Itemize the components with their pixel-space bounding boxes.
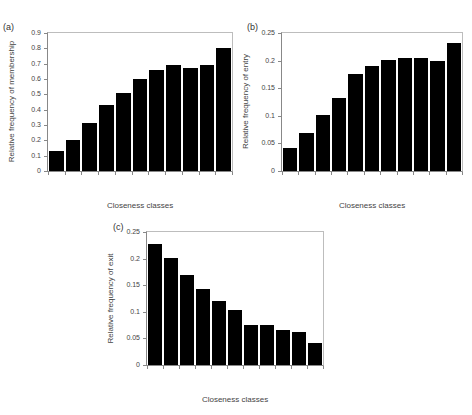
- y-tick-mark: [278, 88, 281, 89]
- x-tick-mark: [429, 172, 430, 175]
- plot-area: [281, 32, 463, 172]
- y-tick-mark: [44, 140, 47, 141]
- x-tick-mark: [227, 366, 228, 369]
- x-tick-mark: [215, 172, 216, 175]
- x-tick-mark: [259, 366, 260, 369]
- bar->=50: [447, 43, 461, 171]
- x-tick-mark: [195, 366, 196, 369]
- bar-15-19: [196, 289, 210, 365]
- y-tick-label: 0.8: [17, 44, 41, 51]
- x-tick-mark: [446, 172, 447, 175]
- y-tick-mark: [44, 156, 47, 157]
- y-axis-label: Relative frequency of membership: [7, 32, 16, 172]
- plot-area: [47, 32, 233, 172]
- bar-20-24: [348, 74, 362, 171]
- bar-30-34: [381, 60, 395, 172]
- y-axis-label: Relative frequency of exit: [106, 231, 115, 366]
- y-tick-label: 0.1: [116, 308, 140, 315]
- x-tick-mark: [243, 366, 244, 369]
- bar-35-39: [166, 65, 181, 171]
- bar-5-9: [66, 140, 81, 171]
- y-tick-label: 0: [251, 167, 275, 174]
- panel-label: (a): [3, 22, 14, 32]
- y-tick-label: 0.2: [17, 136, 41, 143]
- bar-5-9: [164, 258, 178, 365]
- x-tick-mark: [211, 366, 212, 369]
- bar-30-34: [149, 70, 164, 171]
- y-tick-mark: [278, 143, 281, 144]
- y-tick-label: 0.2: [251, 57, 275, 64]
- bar-25-29: [228, 310, 242, 365]
- x-tick-mark: [232, 172, 233, 175]
- bar-15-19: [99, 105, 114, 171]
- bar-5-9: [299, 133, 313, 171]
- y-tick-mark: [143, 312, 146, 313]
- y-tick-label: 0.25: [116, 228, 140, 235]
- x-tick-mark: [98, 172, 99, 175]
- y-tick-mark: [278, 116, 281, 117]
- y-tick-label: 0.05: [116, 334, 140, 341]
- y-tick-label: 0.25: [251, 29, 275, 36]
- x-tick-mark: [165, 172, 166, 175]
- bar-25-29: [365, 66, 379, 171]
- x-tick-mark: [163, 366, 164, 369]
- y-tick-label: 0.5: [17, 90, 41, 97]
- x-tick-mark: [291, 366, 292, 369]
- y-tick-mark: [278, 33, 281, 34]
- y-tick-mark: [44, 125, 47, 126]
- bar-20-24: [212, 301, 226, 365]
- y-tick-mark: [44, 171, 47, 172]
- y-tick-label: 0.1: [251, 112, 275, 119]
- x-axis-label: Closeness classes: [281, 201, 463, 210]
- y-tick-label: 0.9: [17, 29, 41, 36]
- x-tick-mark: [179, 366, 180, 369]
- x-tick-mark: [364, 172, 365, 175]
- bar-15-19: [332, 98, 346, 171]
- bar->=50: [308, 343, 322, 365]
- y-tick-label: 0.6: [17, 75, 41, 82]
- bar-35-39: [260, 325, 274, 365]
- bar-10-14: [316, 115, 330, 171]
- x-axis-label: Closeness classes: [146, 395, 324, 404]
- y-tick-mark: [143, 338, 146, 339]
- x-tick-mark: [397, 172, 398, 175]
- y-tick-mark: [143, 285, 146, 286]
- y-tick-label: 0.1: [17, 152, 41, 159]
- x-tick-mark: [199, 172, 200, 175]
- y-tick-mark: [44, 33, 47, 34]
- y-tick-mark: [143, 259, 146, 260]
- y-tick-mark: [44, 48, 47, 49]
- x-tick-mark: [148, 172, 149, 175]
- x-tick-mark: [323, 366, 324, 369]
- y-tick-mark: [44, 94, 47, 95]
- x-tick-mark: [282, 172, 283, 175]
- bar-45-49: [292, 332, 306, 365]
- bar->=50: [216, 48, 231, 171]
- bar-20-24: [116, 93, 131, 171]
- bar-35-39: [398, 58, 412, 171]
- bar-10-14: [180, 275, 194, 365]
- x-axis-label: Closeness classes: [47, 201, 233, 210]
- bar-10-14: [82, 123, 97, 171]
- y-tick-mark: [143, 365, 146, 366]
- y-tick-label: 0: [17, 167, 41, 174]
- y-tick-mark: [44, 79, 47, 80]
- x-tick-mark: [132, 172, 133, 175]
- y-tick-label: 0: [116, 361, 140, 368]
- y-tick-mark: [278, 61, 281, 62]
- bar-25-29: [133, 79, 148, 171]
- x-tick-mark: [307, 366, 308, 369]
- x-tick-mark: [462, 172, 463, 175]
- bar-0-4: [148, 244, 162, 365]
- bar-40-44: [276, 330, 290, 365]
- y-tick-label: 0.3: [17, 121, 41, 128]
- y-tick-mark: [44, 64, 47, 65]
- y-axis-label: Relative frequency of entry: [241, 32, 250, 172]
- bar-40-44: [414, 58, 428, 171]
- bar-45-49: [430, 61, 444, 171]
- y-tick-mark: [143, 232, 146, 233]
- y-tick-label: 0.15: [251, 84, 275, 91]
- x-tick-mark: [182, 172, 183, 175]
- y-tick-label: 0.7: [17, 60, 41, 67]
- x-tick-mark: [48, 172, 49, 175]
